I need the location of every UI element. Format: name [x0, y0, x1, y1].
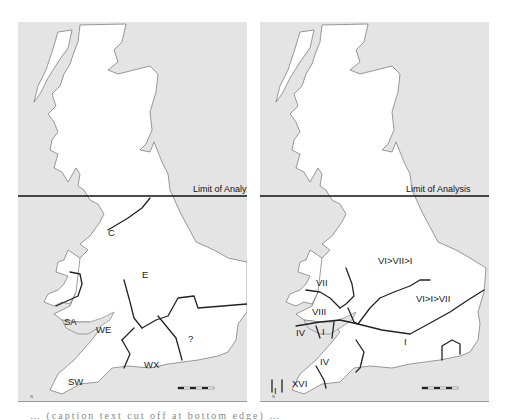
region-label-I-small: I [322, 326, 325, 337]
map-panel-right: Limit of Analysis VI>VII>I VII VIII VI>I… [260, 22, 489, 402]
north-arrow-icon: N [272, 394, 275, 399]
region-label-IV: IV [320, 356, 330, 367]
britain-map-left: Limit of Analysis C E SA WE ? WX SW N [18, 22, 247, 401]
region-label-WE: WE [96, 324, 111, 335]
figure-caption: … (caption text cut off at bottom edge) … [30, 410, 490, 420]
scale-bar [422, 387, 458, 389]
region-label-SW: SW [68, 376, 83, 387]
britain-map-right: Limit of Analysis VI>VII>I VII VIII VI>I… [260, 22, 489, 401]
region-label-VII: VII [316, 277, 328, 288]
region-label-XVI: XVI [292, 378, 307, 389]
region-label-WX: WX [144, 359, 160, 370]
region-label-E: E [142, 269, 148, 280]
map-panel-left: Limit of Analysis C E SA WE ? WX SW N [18, 22, 247, 402]
landmass [48, 24, 247, 394]
north-arrow-icon: N [30, 394, 33, 399]
region-label-VIII: VIII [312, 306, 326, 317]
region-label-unknown: ? [188, 333, 193, 344]
region-label-VI>VII>I: VI>VII>I [378, 255, 412, 266]
region-label-VI>I>VII: VI>I>VII [416, 293, 450, 304]
region-label-I: I [404, 336, 407, 347]
scale-bar [178, 387, 214, 389]
region-label-IV-wales: IV [296, 327, 306, 338]
limit-of-analysis-label: Limit of Analysis [406, 184, 471, 194]
landmass [290, 24, 486, 394]
region-label-SA: SA [64, 316, 77, 327]
limit-of-analysis-label: Limit of Analysis [193, 184, 247, 194]
region-label-C: C [108, 227, 115, 238]
